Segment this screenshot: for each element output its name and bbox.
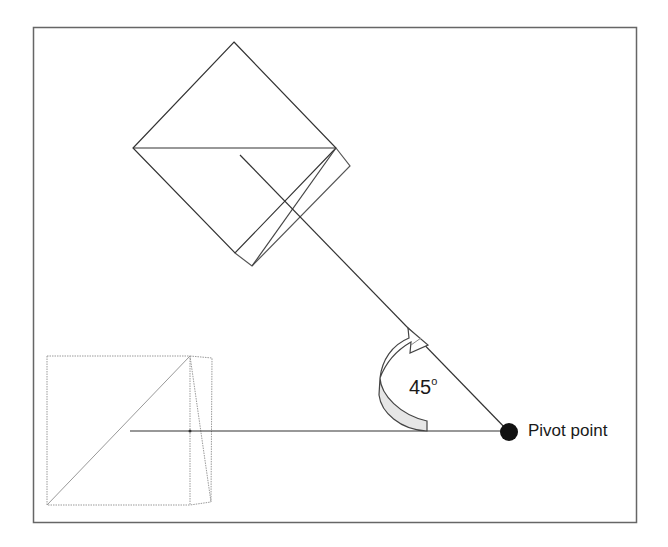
angle-label: 45o [409, 375, 437, 399]
angle-degree-symbol: o [431, 375, 437, 387]
rotation-diagram [0, 0, 668, 547]
original-center-dot [189, 430, 192, 433]
pivot-point-label: Pivot point [528, 421, 607, 441]
rotated-cube [133, 42, 350, 266]
rotated-radius-line [240, 155, 509, 432]
angle-value: 45 [409, 376, 431, 398]
diagram-frame [34, 28, 637, 523]
pivot-point-dot [500, 423, 518, 441]
